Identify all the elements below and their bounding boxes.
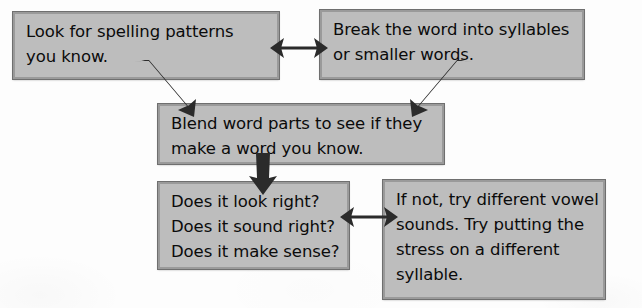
node-text-line: you know. xyxy=(26,44,268,69)
node-text-line: Does it sound right? xyxy=(171,214,338,239)
node-text-line: syllable. xyxy=(396,262,594,287)
flowchart-node-blend-parts: Blend word parts to see if they make a w… xyxy=(158,104,444,164)
node-text-line: make a word you know. xyxy=(171,136,433,161)
node-text-line: Break the word into syllables xyxy=(333,17,573,42)
node-text-line: Does it make sense? xyxy=(171,239,338,264)
flowchart-diagram: Look for spelling patterns you know. Bre… xyxy=(0,0,642,308)
node-text-line: or smaller words. xyxy=(333,42,573,67)
flowchart-node-break-syllables: Break the word into syllables or smaller… xyxy=(320,10,584,79)
node-text-line: If not, try different vowel xyxy=(396,187,594,212)
flowchart-node-try-vowels: If not, try different vowel sounds. Try … xyxy=(383,180,605,299)
flowchart-node-check-questions: Does it look right? Does it sound right?… xyxy=(158,182,349,269)
node-text-line: sounds. Try putting the xyxy=(396,212,594,237)
flowchart-node-spelling-patterns: Look for spelling patterns you know. xyxy=(13,12,279,79)
node-text-line: Blend word parts to see if they xyxy=(171,111,433,136)
node-text-line: Look for spelling patterns xyxy=(26,19,268,44)
node-text-line: stress on a different xyxy=(396,237,594,262)
node-text-line: Does it look right? xyxy=(171,189,338,214)
